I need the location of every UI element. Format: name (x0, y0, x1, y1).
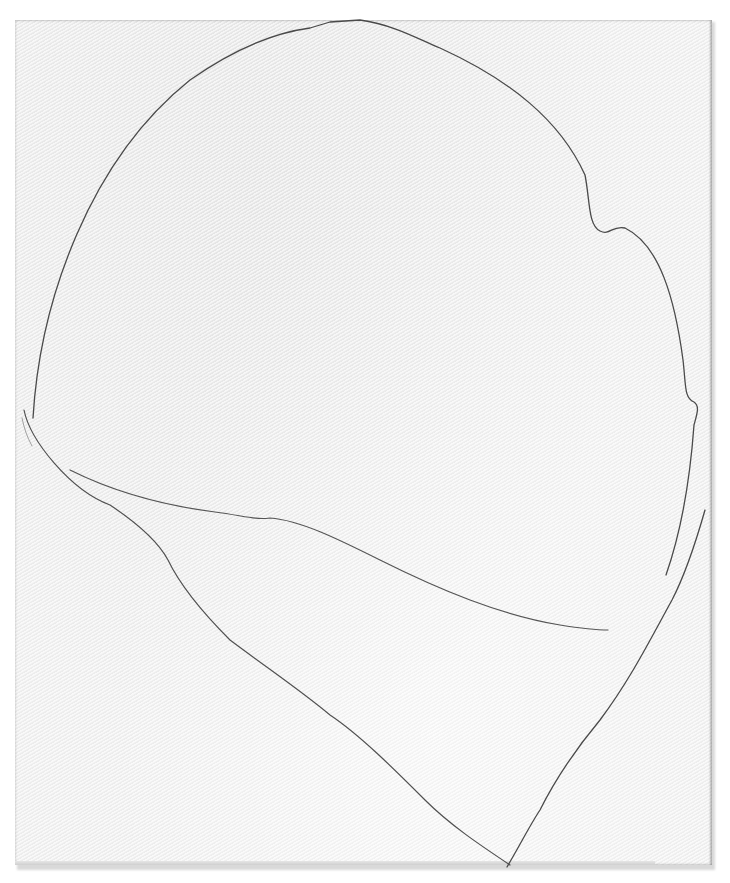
artwork-canvas: pencil line drawing on textured paper (0, 0, 730, 883)
pencil-drawing (0, 0, 730, 883)
outer-contour-stroke (33, 20, 697, 575)
inner-curve-stroke (70, 470, 608, 630)
faint-left-echo-stroke (22, 418, 32, 446)
left-lower-contour-stroke (24, 410, 510, 865)
right-lower-stroke (507, 510, 705, 867)
